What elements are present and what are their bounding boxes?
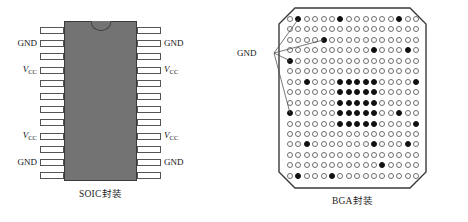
bga-ball: [304, 162, 310, 168]
bga-ball: [405, 89, 411, 95]
soic-pin: [40, 53, 64, 60]
bga-ball: [396, 121, 402, 127]
bga-ball: [388, 58, 394, 64]
bga-ball: [321, 100, 327, 106]
bga-ball: [413, 173, 419, 179]
bga-ball: [371, 37, 377, 43]
soic-pin: [40, 40, 64, 47]
bga-ball: [312, 37, 318, 43]
soic-body: [64, 21, 137, 181]
bga-ball: [388, 68, 394, 74]
bga-ball: [295, 121, 301, 127]
bga-ball: [396, 152, 402, 158]
bga-ball: [312, 141, 318, 147]
bga-ball: [321, 121, 327, 127]
soic-pin: [137, 93, 161, 100]
bga-ball: [413, 37, 419, 43]
bga-ball: [354, 47, 360, 53]
bga-ball: [388, 152, 394, 158]
bga-ball: [329, 110, 335, 116]
bga-ball: [396, 68, 402, 74]
bga-ball: [287, 47, 293, 53]
bga-ball: [321, 79, 327, 85]
bga-ball: [337, 37, 343, 43]
bga-ball: [346, 37, 352, 43]
bga-ball: [413, 47, 419, 53]
bga-ball: [388, 110, 394, 116]
bga-ball: [354, 58, 360, 64]
bga-ball: [363, 26, 369, 32]
soic-pin: [137, 80, 161, 87]
bga-package-diagram: GND BGA封装: [234, 0, 468, 222]
bga-ball: [371, 68, 377, 74]
bga-ball: [379, 47, 385, 53]
bga-ball: [388, 47, 394, 53]
bga-ball: [321, 152, 327, 158]
soic-pin-label-left: VCC: [0, 65, 37, 74]
bga-ball: [405, 110, 411, 116]
bga-ball: [363, 141, 369, 147]
bga-ball: [287, 68, 293, 74]
bga-ball: [405, 173, 411, 179]
bga-ball: [304, 89, 310, 95]
bga-ball: [379, 152, 385, 158]
soic-pin: [40, 133, 64, 140]
bga-ball: [405, 131, 411, 137]
bga-ball: [379, 16, 385, 22]
bga-ball-gnd: [371, 47, 377, 53]
bga-ball: [396, 173, 402, 179]
bga-ball-gnd: [363, 89, 369, 95]
bga-ball-gnd: [346, 110, 352, 116]
soic-pin: [40, 146, 64, 153]
bga-ball: [388, 162, 394, 168]
bga-ball: [379, 79, 385, 85]
bga-ball: [413, 100, 419, 106]
bga-ball: [304, 47, 310, 53]
bga-ball: [371, 162, 377, 168]
bga-ball: [287, 79, 293, 85]
bga-ball: [295, 79, 301, 85]
bga-ball: [379, 131, 385, 137]
soic-pin-label-left: VCC: [0, 131, 37, 140]
bga-ball-gnd: [337, 121, 343, 127]
bga-ball: [371, 26, 377, 32]
bga-ball: [304, 100, 310, 106]
bga-ball-gnd: [354, 121, 360, 127]
bga-ball: [354, 131, 360, 137]
bga-ball: [396, 131, 402, 137]
bga-ball: [413, 152, 419, 158]
bga-ball: [329, 58, 335, 64]
bga-ball: [329, 16, 335, 22]
bga-ball: [295, 110, 301, 116]
bga-ball: [321, 26, 327, 32]
bga-ball: [388, 89, 394, 95]
bga-ball-gnd: [346, 121, 352, 127]
soic-caption: SOIC封装: [0, 186, 201, 200]
bga-ball: [371, 131, 377, 137]
bga-ball: [405, 162, 411, 168]
bga-ball: [287, 121, 293, 127]
bga-ball: [312, 100, 318, 106]
soic-pin: [40, 67, 64, 74]
bga-ball: [396, 79, 402, 85]
bga-ball: [312, 58, 318, 64]
bga-ball-gnd: [354, 79, 360, 85]
soic-pin: [40, 106, 64, 113]
soic-pin: [40, 159, 64, 166]
bga-ball-gnd: [337, 89, 343, 95]
bga-ball: [388, 26, 394, 32]
bga-ball: [346, 68, 352, 74]
bga-ball: [321, 110, 327, 116]
bga-ball: [287, 162, 293, 168]
bga-ball: [312, 110, 318, 116]
bga-ball: [312, 121, 318, 127]
bga-ball: [405, 152, 411, 158]
bga-ball-gnd: [396, 16, 402, 22]
bga-ball: [287, 141, 293, 147]
bga-ball-gnd: [363, 110, 369, 116]
bga-ball: [304, 173, 310, 179]
bga-ball: [363, 162, 369, 168]
bga-ball: [413, 141, 419, 147]
bga-ball: [413, 131, 419, 137]
soic-pin-label-left: GND: [0, 39, 37, 48]
